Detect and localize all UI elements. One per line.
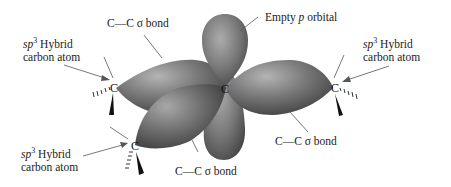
label-bond-top: C—C σ bond <box>107 17 169 30</box>
label-hybrid-bottom-suffix: Hybrid <box>35 148 70 160</box>
label-hybrid-right-suffix: Hybrid <box>377 38 412 50</box>
label-hybrid-bottom: sp3 Hybrid carbon atom <box>21 148 78 174</box>
label-hybrid-left-sp: sp <box>23 38 33 50</box>
arrow-hybrid-left <box>64 65 108 79</box>
arrowhead-bottom-icon <box>120 142 128 148</box>
label-hybrid-right: sp3 Hybrid carbon atom <box>363 38 420 64</box>
label-hybrid-right-sp: sp <box>363 38 373 50</box>
sigma-bond-lobe-right <box>226 60 333 115</box>
arrow-hybrid-right <box>344 66 389 81</box>
label-bond-right: C—C σ bond <box>275 135 337 148</box>
atom-left: C <box>110 81 118 95</box>
leader-bond-right <box>290 112 308 132</box>
atom-bottom: C <box>131 139 139 153</box>
label-bond-bottom-mid: C—C σ bond <box>175 165 237 178</box>
atom-center: C <box>221 82 229 96</box>
label-empty-p-prefix: Empty <box>265 11 299 23</box>
label-empty-p-orbital: Empty p orbital <box>265 11 337 24</box>
arrowhead-left-icon <box>101 75 110 81</box>
leader-bond-top <box>144 35 162 58</box>
label-hybrid-right-line2: carbon atom <box>363 51 420 64</box>
label-empty-p-suffix: orbital <box>304 11 337 23</box>
label-hybrid-left-suffix: Hybrid <box>37 38 72 50</box>
label-hybrid-bottom-sp: sp <box>21 148 31 160</box>
label-bond-bottom-mid-text: C—C σ bond <box>175 165 237 177</box>
atom-right: C <box>331 81 339 95</box>
label-hybrid-left-line2: carbon atom <box>23 51 80 64</box>
label-bond-top-text: C—C σ bond <box>107 17 169 29</box>
label-hybrid-left: sp3 Hybrid carbon atom <box>23 38 80 64</box>
arrow-hybrid-bottom <box>83 144 126 156</box>
label-bond-right-text: C—C σ bond <box>275 135 337 147</box>
arrowhead-right-icon <box>342 76 351 82</box>
leader-bond-bottom <box>192 140 198 152</box>
label-hybrid-bottom-line2: carbon atom <box>21 161 78 174</box>
